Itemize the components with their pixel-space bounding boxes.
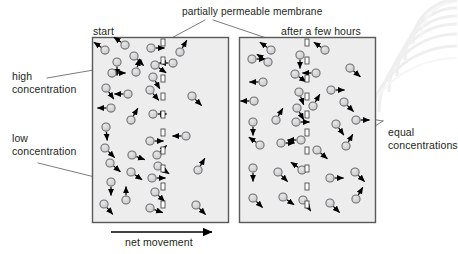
particle-circle	[146, 137, 154, 145]
particle-circle	[321, 46, 329, 54]
membrane-pore	[161, 129, 165, 136]
membrane-pore	[161, 39, 165, 46]
particle-circle	[326, 174, 334, 182]
membrane-pore	[305, 183, 309, 190]
membrane-pore	[305, 93, 309, 100]
particle-circle	[146, 86, 154, 94]
particle-motion-arrow	[106, 132, 107, 141]
label-equal-concentrations-line2: concentrations	[388, 139, 458, 152]
particle-circle	[292, 118, 300, 126]
particle-circle	[149, 73, 157, 81]
particle-circle	[148, 174, 156, 182]
particle-circle	[169, 59, 177, 67]
membrane-pore	[161, 201, 165, 208]
membrane-pore	[305, 147, 309, 154]
particle-circle	[332, 120, 340, 128]
particle-circle	[327, 86, 335, 94]
particle-circle	[342, 142, 350, 150]
particle-circle	[274, 168, 282, 176]
particle-circle	[176, 48, 184, 56]
membrane-start	[159, 37, 168, 222]
particle-circle	[106, 159, 114, 167]
particle-circle	[127, 116, 135, 124]
label-net-movement: net movement	[125, 236, 193, 249]
membrane-after-a-few-hours	[303, 37, 312, 222]
particle-circle	[291, 70, 299, 78]
label-low-concentration-line1: low	[12, 132, 28, 145]
particle-circle	[128, 151, 136, 159]
particle-circle	[121, 41, 129, 49]
particle-circle	[147, 44, 155, 52]
particle-circle	[194, 166, 202, 174]
particle-circle	[249, 194, 257, 202]
particle-circle	[249, 118, 257, 126]
membrane-pore	[161, 57, 165, 64]
particle-circle	[192, 201, 200, 209]
particle-circle	[256, 141, 264, 149]
particle-circle	[259, 78, 267, 86]
particle-circle	[340, 98, 348, 106]
particle-circle	[248, 55, 256, 63]
label-partially-permeable-membrane: partially permeable membrane	[182, 6, 322, 19]
label-high-concentration-line2: concentration	[12, 83, 76, 96]
particle-circle	[149, 110, 157, 118]
particle-circle	[113, 58, 121, 66]
particle-circle	[312, 69, 320, 77]
particle-circle	[151, 188, 159, 196]
particle-circle	[102, 123, 110, 131]
particle-circle	[267, 46, 275, 54]
particle-circle	[250, 97, 258, 105]
membrane-pore	[305, 75, 309, 82]
panel-title-start: start	[93, 25, 114, 38]
particle-circle	[352, 116, 360, 124]
membrane-pore	[305, 57, 309, 64]
particle-circle	[101, 144, 109, 152]
particle-circle	[295, 88, 303, 96]
particle-circle	[151, 61, 159, 69]
particle-circle	[346, 64, 354, 72]
particle-circle	[249, 164, 257, 172]
membrane-pore	[305, 39, 309, 46]
membrane-pore	[161, 75, 165, 82]
particle-circle	[102, 84, 110, 92]
particle-circle	[122, 196, 130, 204]
particle-circle	[100, 200, 108, 208]
membrane-pore	[305, 201, 309, 208]
particle-circle	[351, 168, 359, 176]
membrane-pore	[161, 147, 165, 154]
particle-circle	[127, 168, 135, 176]
particle-circle	[107, 178, 115, 186]
particle-circle	[130, 52, 138, 60]
particle-circle	[101, 46, 109, 54]
label-high-concentration-line1: high	[12, 70, 32, 83]
particle-circle	[272, 116, 280, 124]
membrane-pore	[161, 93, 165, 100]
particle-circle	[124, 90, 132, 98]
membrane-pore	[305, 111, 309, 118]
membrane-pore	[305, 165, 309, 172]
particle-circle	[107, 104, 115, 112]
particle-circle	[352, 195, 360, 203]
particle-circle	[132, 68, 140, 76]
particle-circle	[313, 146, 321, 154]
particle-circle	[146, 204, 154, 212]
panels-group	[93, 38, 376, 223]
membrane-pore	[161, 165, 165, 172]
particle-circle	[264, 58, 272, 66]
label-equal-concentrations-line1: equal	[388, 126, 414, 139]
particle-circle	[279, 193, 287, 201]
membrane-pore	[161, 111, 165, 118]
label-low-concentration-line2: concentration	[12, 145, 76, 158]
particle-circle	[277, 139, 285, 147]
particle-circle	[182, 132, 190, 140]
particle-circle	[108, 69, 116, 77]
membrane-pore	[305, 129, 309, 136]
particle-circle	[188, 92, 196, 100]
panel-title-after-a-few-hours: after a few hours	[281, 25, 361, 38]
membrane-pore	[161, 183, 165, 190]
particle-circle	[293, 104, 301, 112]
particle-circle	[326, 199, 334, 207]
